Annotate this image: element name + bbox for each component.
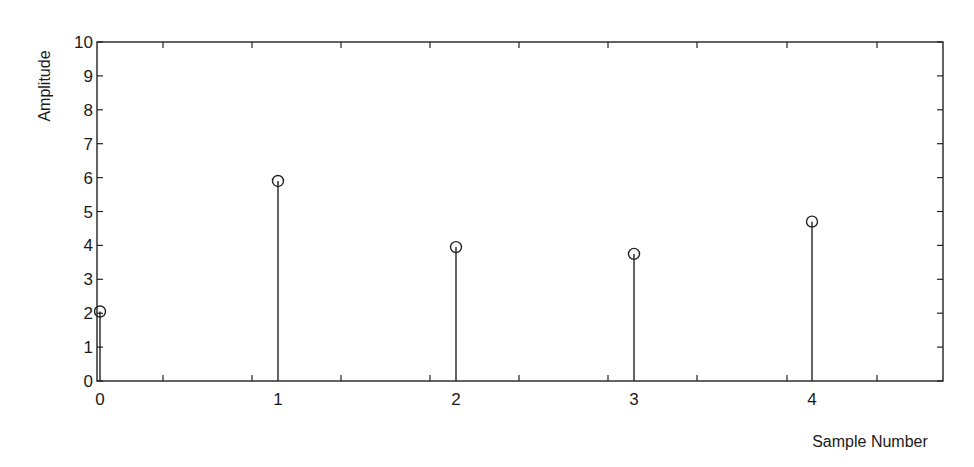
y-tick-label: 8 bbox=[84, 101, 93, 120]
y-axis-label: Amplitude bbox=[36, 50, 53, 121]
stem-point bbox=[273, 175, 284, 381]
y-tick-label: 2 bbox=[84, 304, 93, 323]
y-tick-label: 0 bbox=[84, 372, 93, 391]
stem-point bbox=[451, 242, 462, 381]
x-tick-label: 1 bbox=[273, 390, 282, 409]
x-axis-label: Sample Number bbox=[812, 433, 928, 450]
y-tick-label: 4 bbox=[84, 236, 93, 255]
plot-frame bbox=[97, 42, 943, 381]
plot-border bbox=[97, 42, 943, 381]
y-tick-label: 5 bbox=[84, 203, 93, 222]
y-tick-label: 3 bbox=[84, 270, 93, 289]
y-tick-label: 10 bbox=[74, 33, 93, 52]
y-tick-label: 1 bbox=[84, 338, 93, 357]
x-axis-ticks: 01234 bbox=[95, 42, 877, 409]
stem-point bbox=[629, 248, 640, 381]
stem-chart: 012345678910 01234 Sample Number Amplitu… bbox=[0, 0, 974, 467]
stem-point bbox=[807, 216, 818, 381]
x-tick-label: 0 bbox=[95, 390, 104, 409]
y-tick-label: 7 bbox=[84, 135, 93, 154]
y-tick-label: 6 bbox=[84, 169, 93, 188]
stem-point bbox=[95, 306, 106, 381]
x-tick-label: 2 bbox=[451, 390, 460, 409]
x-tick-label: 3 bbox=[629, 390, 638, 409]
y-tick-label: 9 bbox=[84, 67, 93, 86]
data-series bbox=[95, 175, 818, 381]
x-tick-label: 4 bbox=[807, 390, 816, 409]
